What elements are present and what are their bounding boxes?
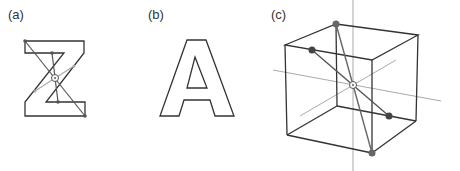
diagram-canvas (0, 0, 460, 171)
cube-top-face (285, 24, 418, 60)
cube-edge (372, 121, 416, 153)
z-inversion-center-dot (54, 77, 56, 79)
cube-node (333, 21, 340, 28)
cube-node (309, 47, 316, 54)
cube-edge (285, 45, 287, 135)
panel-a (23, 39, 87, 118)
z-node (83, 114, 87, 118)
z-node (56, 100, 60, 104)
cube-edge (337, 106, 416, 121)
cube-node (386, 113, 393, 120)
cube-edge (336, 24, 337, 106)
horizontal-axis (273, 70, 441, 101)
z-gray-node (73, 65, 76, 68)
z-node (50, 51, 54, 55)
z-gray-node (34, 90, 37, 93)
cube-edge (416, 35, 418, 121)
cube-edge (287, 106, 337, 135)
panel-b (160, 40, 234, 116)
letter-a-outline (160, 40, 234, 116)
panel-c (273, 0, 441, 171)
z-node (23, 39, 27, 43)
cube-inversion-center-dot (352, 84, 354, 86)
letter-a-hole (187, 57, 207, 88)
cube-edge (287, 135, 372, 153)
cube-node (369, 150, 376, 157)
